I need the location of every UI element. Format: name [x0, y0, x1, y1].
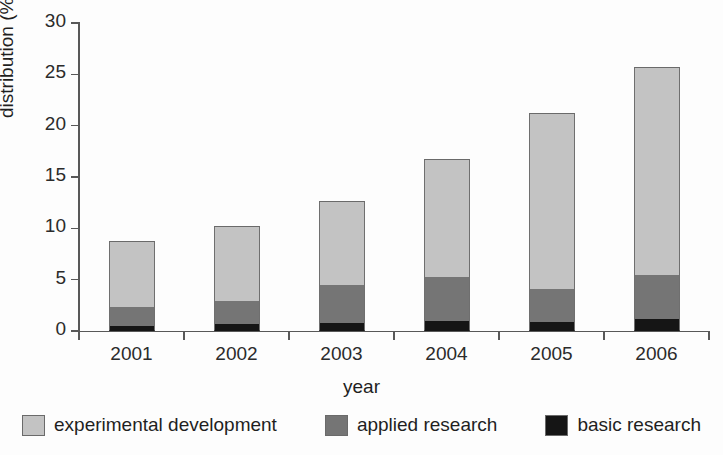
bar-segment-basic-research — [424, 321, 470, 331]
y-axis-tick — [71, 22, 79, 24]
bar-segment-experimental-development — [109, 241, 155, 308]
x-axis-tick-label-2005: 2005 — [492, 343, 612, 365]
bar-2001 — [109, 241, 155, 331]
bar-segment-applied-research — [424, 277, 470, 321]
legend-swatch-icon — [545, 415, 568, 436]
legend-swatch-icon — [22, 415, 45, 436]
bar-segment-experimental-development — [424, 159, 470, 277]
x-axis-tick — [78, 331, 80, 340]
x-axis-tick — [498, 331, 500, 340]
legend-label: applied research — [357, 414, 497, 436]
legend-label: basic research — [577, 414, 701, 436]
x-axis-tick-label-2002: 2002 — [177, 343, 297, 365]
bar-segment-applied-research — [634, 275, 680, 319]
x-axis-tick — [393, 331, 395, 340]
y-axis-tick-label: 0 — [0, 318, 66, 340]
y-axis-tick-label: 20 — [0, 113, 66, 135]
legend-item-applied-research[interactable]: applied research — [325, 414, 497, 436]
x-axis-tick-label-2006: 2006 — [597, 343, 717, 365]
legend-label: experimental development — [54, 414, 277, 436]
plot-area — [79, 23, 709, 331]
y-axis-tick-label: 15 — [0, 164, 66, 186]
legend-item-basic-research[interactable]: basic research — [545, 414, 701, 436]
y-axis-tick-label: 25 — [0, 61, 66, 83]
x-axis-tick-label-2001: 2001 — [72, 343, 192, 365]
x-axis-title: year — [0, 376, 723, 398]
chart-legend: experimental developmentapplied research… — [0, 414, 723, 436]
bar-segment-experimental-development — [214, 226, 260, 301]
y-axis-tick-label: 5 — [0, 267, 66, 289]
bar-2003 — [319, 201, 365, 331]
x-axis-tick-label-2003: 2003 — [282, 343, 402, 365]
legend-swatch-icon — [325, 415, 348, 436]
bar-segment-basic-research — [109, 326, 155, 331]
y-axis-tick-label: 30 — [0, 10, 66, 32]
bar-2002 — [214, 226, 260, 331]
bar-segment-basic-research — [529, 322, 575, 331]
y-axis-tick-label: 10 — [0, 215, 66, 237]
bar-segment-basic-research — [634, 319, 680, 331]
x-axis-tick-label-2004: 2004 — [387, 343, 507, 365]
stacked-bar-chart: distribution (%) 051015202530 2001200220… — [0, 0, 723, 455]
bar-segment-experimental-development — [319, 201, 365, 285]
x-axis-tick — [183, 331, 185, 340]
y-axis-tick — [71, 176, 79, 178]
bar-2005 — [529, 113, 575, 331]
bar-segment-experimental-development — [634, 67, 680, 274]
legend-item-experimental-development[interactable]: experimental development — [22, 414, 277, 436]
bar-segment-experimental-development — [529, 113, 575, 289]
bar-2004 — [424, 159, 470, 331]
bar-segment-basic-research — [319, 323, 365, 331]
bar-segment-applied-research — [319, 285, 365, 323]
y-axis-tick — [71, 125, 79, 127]
bar-2006 — [634, 67, 680, 331]
x-axis-tick — [708, 331, 710, 340]
bar-segment-applied-research — [214, 301, 260, 324]
x-axis-tick — [603, 331, 605, 340]
x-axis-tick — [288, 331, 290, 340]
y-axis-tick — [71, 279, 79, 281]
y-axis-tick — [71, 74, 79, 76]
bar-segment-applied-research — [529, 289, 575, 322]
bar-segment-basic-research — [214, 324, 260, 331]
bar-segment-applied-research — [109, 307, 155, 325]
y-axis-tick — [71, 228, 79, 230]
